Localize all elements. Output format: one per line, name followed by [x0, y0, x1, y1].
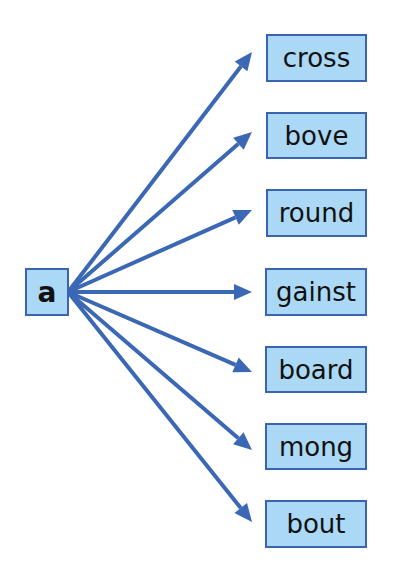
arrow-to-round — [68, 217, 236, 292]
target-node-board: board — [265, 346, 367, 393]
target-label: mong — [279, 432, 353, 462]
target-label: cross — [283, 43, 350, 73]
arrow-to-board — [68, 292, 235, 365]
source-label: a — [38, 276, 57, 309]
arrowhead-icon — [234, 284, 252, 300]
target-label: board — [278, 355, 353, 385]
target-node-round: round — [266, 189, 367, 237]
target-label: round — [279, 198, 355, 228]
source-node-a: a — [25, 268, 69, 316]
target-node-bove: bove — [266, 112, 367, 159]
target-label: gainst — [276, 277, 356, 307]
target-node-mong: mong — [265, 423, 367, 470]
target-node-bout: bout — [265, 500, 367, 548]
target-label: bove — [285, 121, 349, 151]
target-node-gainst: gainst — [265, 268, 367, 316]
arrow-to-mong — [68, 292, 238, 438]
arrow-to-cross — [68, 66, 241, 292]
target-label: bout — [286, 509, 345, 539]
target-node-cross: cross — [266, 34, 367, 82]
arrow-to-bout — [68, 292, 241, 508]
arrow-to-bove — [68, 144, 238, 292]
